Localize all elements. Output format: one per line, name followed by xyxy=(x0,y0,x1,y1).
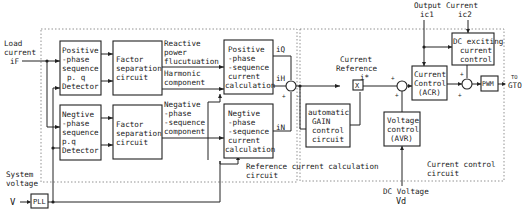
summing-junction-1 xyxy=(286,81,296,91)
vd-label: Vd xyxy=(396,196,406,206)
neg-comp-label-2: -sequence xyxy=(164,118,206,127)
pos-detector-text-1: -phase xyxy=(62,55,90,64)
current-reference-label-0: Current xyxy=(340,55,372,64)
summing-junction-2 xyxy=(397,81,407,91)
neg-detector-text-1: -phase xyxy=(62,119,90,128)
neg-calc-text-1: -phase xyxy=(228,118,256,127)
factor1-text-0: Factor xyxy=(116,55,144,64)
neg-calc-text-4: calculation xyxy=(225,145,275,154)
harmonic-label-1: component xyxy=(164,78,205,87)
iq-label: iQ xyxy=(276,45,286,54)
load-current-label: Load xyxy=(4,39,22,48)
svg-text:+: + xyxy=(391,74,395,81)
pos-calc-text-4: calculation xyxy=(225,81,275,90)
acr-text-1: Control xyxy=(414,79,446,88)
gto-label: GTO xyxy=(508,81,522,90)
agc-text-0: automatic xyxy=(308,108,349,117)
reactive-label-1: power xyxy=(164,48,187,57)
svg-text:+: + xyxy=(458,91,462,98)
if-label: iF xyxy=(10,57,20,66)
factor2-text-1: separation xyxy=(116,129,162,138)
acr-text-2: (ACR) xyxy=(418,88,441,97)
svg-text:+: + xyxy=(460,70,464,77)
dc-exciting-text-2: control xyxy=(460,55,492,64)
dc-voltage-label: DC Voltage xyxy=(383,187,429,196)
factor2-text-2: circuit xyxy=(116,138,148,147)
harmonic-label-0: Harmonic xyxy=(164,69,201,78)
reactive-label-2: flucutuation xyxy=(164,57,219,66)
neg-calc-text-2: -sequence xyxy=(228,127,270,136)
factor2-text-0: Factor xyxy=(116,120,144,129)
pos-detector-text-2: sequence xyxy=(62,64,99,73)
neg-comp-label-1: -phase xyxy=(164,109,192,118)
load-current-label-2: current xyxy=(4,48,36,57)
pll-label: PLL xyxy=(33,198,46,206)
neg-detector-text-4: Detector xyxy=(62,146,99,155)
pos-calc-text-3: current xyxy=(228,72,260,81)
control-region-label-1: circuit xyxy=(427,169,459,178)
pos-detector-text-0: Positive xyxy=(62,46,99,55)
reference-region-label-0: Reference current calculation xyxy=(246,162,379,171)
reference-region-label-1: circuit xyxy=(246,171,278,180)
current-reference-label-1: Reference xyxy=(336,64,378,73)
agc-text-3: circuit xyxy=(312,135,344,144)
pos-calc-text-1: -phase xyxy=(228,54,256,63)
pos-calc-text-2: -sequence xyxy=(228,63,270,72)
factor1-text-1: separation xyxy=(116,64,162,73)
pos-detector-text-4: Detector xyxy=(62,82,99,91)
v-symbol: V xyxy=(10,197,16,207)
system-voltage-label-2: voltage xyxy=(6,179,38,188)
agc-text-1: GAIN xyxy=(312,117,331,126)
control-block-diagram: Load current iF System voltage V PLL Pos… xyxy=(0,0,529,219)
svg-text:-: - xyxy=(296,92,300,99)
pos-calc-text-0: Positive xyxy=(228,45,265,54)
control-region-label-0: Current control xyxy=(427,160,496,169)
acr-text-0: Current xyxy=(414,70,446,79)
dc-exciting-text-1: current xyxy=(460,46,492,55)
summing-junction-3 xyxy=(462,79,472,89)
pos-detector-text-3: p. q xyxy=(67,73,85,82)
ic1-label: ic1 xyxy=(420,10,434,19)
output-current-label: Output Current xyxy=(414,1,478,10)
factor1-text-2: circuit xyxy=(116,73,148,82)
svg-text:+: + xyxy=(395,91,399,98)
neg-detector-text-0: Negtive xyxy=(62,110,94,119)
reactive-label-0: Reactive xyxy=(164,39,201,48)
system-voltage-label: System xyxy=(6,170,34,179)
pwm-label: PWM xyxy=(482,80,494,88)
svg-text:+: + xyxy=(282,92,286,99)
agc-text-2: control xyxy=(312,126,344,135)
neg-detector-text-3: p.q xyxy=(62,137,76,146)
ic2-label: ic2 xyxy=(458,10,472,19)
neg-detector-text-2: sequence xyxy=(62,128,99,137)
neg-comp-label-0: Negative xyxy=(164,100,201,109)
neg-comp-label-3: component xyxy=(164,127,205,136)
ih-label: iH xyxy=(276,74,286,83)
dc-exciting-text-0: DC exciting xyxy=(453,37,503,46)
i-star-label: i* xyxy=(360,73,369,82)
avr-text-2: (AVR) xyxy=(390,134,413,143)
avr-text-0: Voltage xyxy=(387,116,419,125)
neg-calc-text-3: current xyxy=(228,136,260,145)
to-label: TO xyxy=(511,74,518,80)
neg-calc-text-0: Negtive xyxy=(228,109,260,118)
avr-text-1: control xyxy=(387,125,419,134)
